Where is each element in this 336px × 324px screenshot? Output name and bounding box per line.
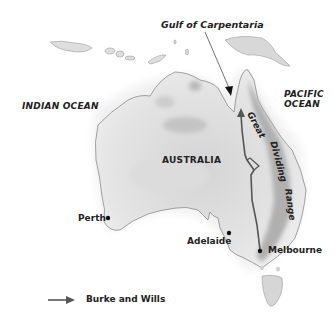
city-label-perth: Perth — [78, 213, 106, 223]
tasmania — [262, 275, 283, 306]
indian-ocean-label: INDIAN OCEAN — [22, 101, 99, 111]
australia-label: AUSTRALIA — [162, 155, 221, 165]
new-guinea — [225, 36, 290, 66]
legend-route-label: Burke and Wills — [86, 294, 165, 304]
pacific-ocean-label-line2: OCEAN — [284, 99, 320, 109]
pacific-ocean-label-line1: PACIFIC — [284, 89, 324, 99]
legend-route-icon — [48, 296, 75, 304]
gulf-of-carpentaria-label: Gulf of Carpentaria — [161, 19, 264, 30]
city-label-melbourne: Melbourne — [268, 245, 322, 255]
city-dot-melbourne — [258, 249, 262, 253]
city-label-adelaide: Adelaide — [187, 236, 231, 246]
indonesia-islands — [50, 40, 189, 64]
bass-strait-island — [260, 266, 264, 270]
bass-strait-island — [276, 267, 280, 272]
city-dot-adelaide — [227, 231, 231, 235]
city-dot-perth — [106, 216, 110, 220]
